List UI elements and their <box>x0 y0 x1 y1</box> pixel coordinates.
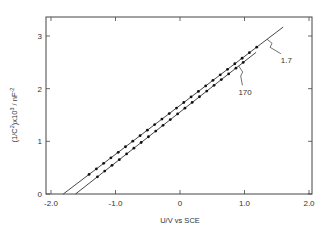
data-point <box>154 130 157 133</box>
data-point <box>161 118 164 121</box>
leader-line <box>239 66 243 85</box>
data-point <box>140 141 143 144</box>
data-point <box>118 158 121 161</box>
data-series: 1.7170 <box>63 27 292 194</box>
data-point <box>146 129 149 132</box>
data-point <box>88 173 91 176</box>
data-point <box>191 101 194 104</box>
data-point <box>255 46 258 49</box>
data-point <box>147 135 150 138</box>
data-point <box>182 101 185 104</box>
y-tick-label: 2 <box>38 85 43 94</box>
data-point <box>175 107 178 110</box>
data-point <box>169 118 172 121</box>
x-tick-label: 1.0 <box>239 199 251 208</box>
data-point <box>227 72 230 75</box>
leader-line <box>267 39 281 53</box>
data-point <box>213 84 216 87</box>
data-point <box>95 167 98 170</box>
data-point <box>190 96 193 99</box>
series-170: 170 <box>76 52 257 194</box>
data-point <box>102 162 105 165</box>
data-point <box>198 95 201 98</box>
data-point <box>212 79 215 82</box>
data-point <box>241 57 244 60</box>
data-point <box>124 145 127 148</box>
data-point <box>125 153 128 156</box>
data-point <box>226 68 229 71</box>
mott-schottky-chart: -2.0-1.001.02.0 0123 1.7170 U/V vs SCE (… <box>0 0 331 233</box>
x-tick-label: 2.0 <box>303 199 315 208</box>
data-point <box>96 175 99 178</box>
data-point <box>205 90 208 93</box>
series-label: 170 <box>238 88 252 97</box>
data-point <box>132 147 135 150</box>
y-tick-label: 3 <box>38 32 43 41</box>
x-tick-label: -1.0 <box>109 199 123 208</box>
y-axis-ticks: 0123 <box>38 32 312 199</box>
data-point <box>103 170 106 173</box>
data-point <box>233 62 236 65</box>
data-point <box>168 112 171 115</box>
data-point <box>162 124 165 127</box>
data-point <box>153 123 156 126</box>
data-point <box>184 107 187 110</box>
x-axis-title: U/V vs SCE <box>160 216 200 225</box>
data-point <box>117 151 120 154</box>
data-point <box>242 61 245 64</box>
data-point <box>197 90 200 93</box>
data-point <box>235 67 238 70</box>
y-tick-label: 0 <box>38 190 43 199</box>
y-tick-label: 1 <box>38 137 43 146</box>
data-point <box>219 73 222 76</box>
data-point <box>176 113 179 116</box>
data-point <box>220 78 223 81</box>
series-1.7: 1.7 <box>63 27 292 194</box>
data-point <box>131 140 134 143</box>
x-tick-label: 0 <box>178 199 183 208</box>
data-point <box>139 134 142 137</box>
series-label: 1.7 <box>281 56 293 65</box>
y-axis-title: (1/C2)x103 / nF-2 <box>9 88 19 143</box>
data-point <box>204 84 207 87</box>
x-tick-label: -2.0 <box>44 199 58 208</box>
data-point <box>111 164 114 167</box>
data-point <box>248 51 251 54</box>
data-point <box>110 156 113 159</box>
